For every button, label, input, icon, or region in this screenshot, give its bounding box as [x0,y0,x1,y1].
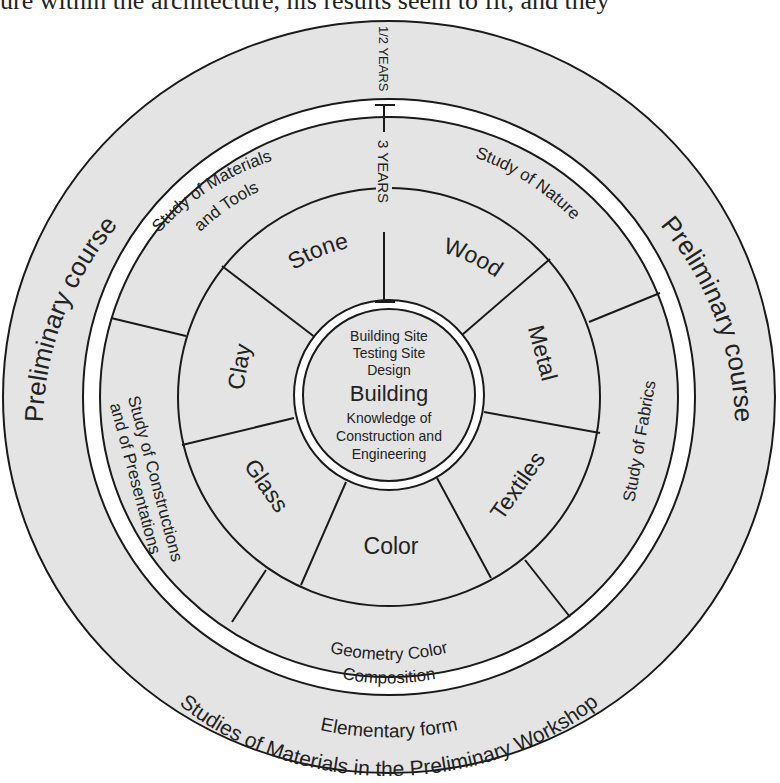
center-line-6: Engineering [352,446,427,462]
center-line-3: Design [367,362,411,378]
curriculum-wheel: 1/2 YEARS 3 YEARS Preliminary course Pre… [0,0,780,783]
material-color: Color [364,533,419,559]
center-line-4: Knowledge of [347,410,432,426]
center-title: Building [350,381,428,406]
duration-three-years: 3 YEARS [375,140,392,203]
center-line-1: Building Site [350,328,428,344]
center-line-5: Construction and [336,428,442,444]
center-line-2: Testing Site [353,345,426,361]
duration-half-year: 1/2 YEARS [376,26,391,92]
